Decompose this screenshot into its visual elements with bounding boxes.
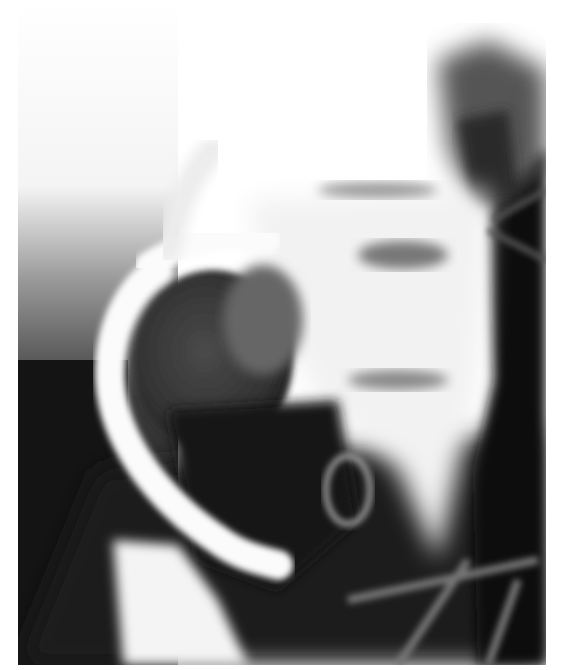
xray-render (18, 0, 546, 665)
radiograph-image (18, 0, 546, 665)
